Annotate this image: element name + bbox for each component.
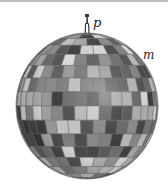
mirror-ball-figure: p m (0, 0, 168, 192)
label-m: m (143, 48, 154, 62)
label-p: p (93, 15, 102, 30)
ball-shading (16, 33, 158, 179)
hook-loop (85, 23, 89, 34)
hanger-hook (85, 14, 89, 34)
